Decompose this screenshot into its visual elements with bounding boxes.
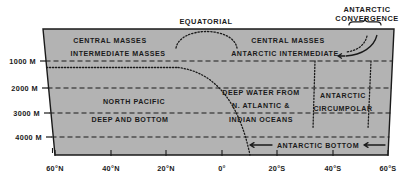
n-atlantic-and-label: N. ATLANTIC & bbox=[232, 102, 290, 110]
north-pacific-label: NORTH PACIFIC bbox=[103, 98, 165, 106]
equatorial-label: EQUATORIAL bbox=[179, 17, 232, 26]
central-masses-south-label: CENTRAL MASSES bbox=[251, 37, 324, 45]
depth-label-2000m: 2000 M bbox=[11, 84, 38, 93]
lat-label-0: 0° bbox=[218, 164, 226, 173]
antarctic-convergence-label-line1: ANTARCTIC bbox=[343, 5, 390, 14]
antarctic-intermediate-label: ANTARCTIC INTERMEDIATE bbox=[231, 50, 339, 58]
antarctic-convergence-label-line2: CONVERGENCE bbox=[335, 14, 398, 23]
depth-label-3000m: 3000 M bbox=[13, 109, 40, 118]
ocean-cross-section-figure: EQUATORIAL ANTARCTIC CONVERGENCE CENTRAL… bbox=[0, 0, 413, 183]
lat-label-40n: 40°N bbox=[102, 164, 120, 173]
indian-oceans-label: INDIAN OCEANS bbox=[229, 116, 293, 124]
deep-and-bottom-label: DEEP AND BOTTOM bbox=[91, 116, 168, 124]
depth-label-4000m: 4000 M bbox=[15, 133, 42, 142]
lat-label-60s: 60°S bbox=[379, 164, 396, 173]
lat-label-40s: 40°S bbox=[324, 164, 341, 173]
lat-label-20n: 20°N bbox=[157, 164, 175, 173]
intermediate-masses-north-label: INTERMEDIATE MASSES bbox=[70, 50, 165, 58]
deep-water-from-label: DEEP WATER FROM bbox=[222, 89, 299, 97]
depth-label-1000m: 1000 M bbox=[9, 57, 36, 66]
antarctic-circumpolar-label-line2: CIRCUMPOLAR bbox=[313, 105, 372, 113]
antarctic-bottom-label: ANTARCTIC BOTTOM bbox=[277, 142, 359, 150]
lat-label-60n: 60°N bbox=[46, 164, 64, 173]
antarctic-circumpolar-label-line1: ANTARCTIC bbox=[320, 92, 366, 100]
central-masses-north-label: CENTRAL MASSES bbox=[73, 37, 146, 45]
lat-label-20s: 20°S bbox=[268, 164, 285, 173]
